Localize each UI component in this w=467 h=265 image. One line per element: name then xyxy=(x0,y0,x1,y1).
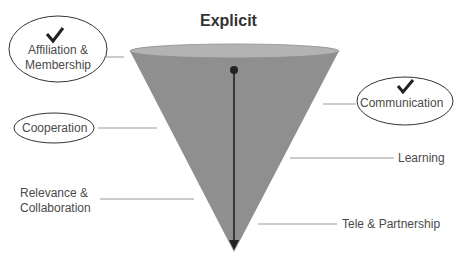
label-cooperation: Cooperation xyxy=(22,121,87,136)
label-affiliation-line2: Membership xyxy=(20,58,96,73)
label-learning: Learning xyxy=(398,151,445,166)
label-relevance-line1: Relevance & xyxy=(20,186,91,201)
label-relevance: Relevance & Collaboration xyxy=(20,186,91,216)
label-relevance-line2: Collaboration xyxy=(20,201,91,216)
diagram-title: Explicit xyxy=(200,12,257,30)
label-affiliation: Affiliation & Membership xyxy=(20,43,96,73)
label-affiliation-line1: Affiliation & xyxy=(20,43,96,58)
cone-top xyxy=(130,44,339,58)
label-tele: Tele & Partnership xyxy=(342,217,440,232)
label-communication: Communication xyxy=(360,96,443,111)
